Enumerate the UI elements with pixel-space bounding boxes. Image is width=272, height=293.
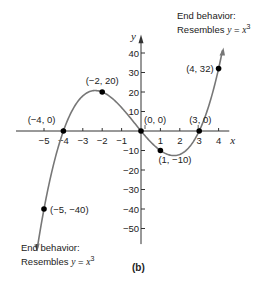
- y-tick-label: 20: [128, 87, 139, 98]
- note-line-2: Resembles y = x3: [21, 253, 94, 268]
- y-tick-label: 40: [128, 48, 139, 59]
- x-tick-label: 3: [197, 135, 202, 146]
- y-tick-label: −50: [123, 223, 139, 234]
- point-label: (−2, 20): [86, 75, 119, 86]
- y-axis-arrow-icon: [139, 34, 144, 43]
- y-tick-label: −20: [123, 165, 139, 176]
- data-point: [61, 128, 67, 134]
- data-point: [41, 206, 47, 212]
- eq-exponent: 3: [246, 23, 250, 30]
- figure-caption: (b): [132, 262, 145, 273]
- end-behavior-note-bottom: End behavior: Resembles y = x3: [21, 242, 94, 268]
- note-text: Resembles: [177, 24, 225, 35]
- x-tick-label: −3: [77, 135, 88, 146]
- y-tick-label: 30: [128, 67, 139, 78]
- note-line-1: End behavior:: [21, 242, 94, 253]
- end-behavior-note-top: End behavior: Resembles y = x3: [177, 10, 250, 36]
- x-tick-label: −2: [97, 135, 108, 146]
- point-label: (1, −10): [158, 154, 191, 165]
- x-tick-label: −5: [39, 135, 50, 146]
- note-line-1: End behavior:: [177, 10, 250, 21]
- data-point: [158, 148, 164, 154]
- data-point: [216, 66, 222, 72]
- x-tick-label: 1: [158, 135, 163, 146]
- point-label: (−4, 0): [28, 114, 56, 125]
- y-tick-label: 10: [128, 106, 139, 117]
- data-point: [138, 128, 144, 134]
- point-label: (3, 0): [189, 114, 211, 125]
- note-text: Resembles: [21, 256, 69, 267]
- x-tick-label: 2: [177, 135, 182, 146]
- point-label: (−5, −40): [50, 204, 89, 215]
- point-label: (0, 0): [144, 114, 166, 125]
- eq-equals: =: [75, 256, 86, 267]
- y-tick-label: −10: [123, 145, 139, 156]
- note-line-2: Resembles y = x3: [177, 21, 250, 36]
- y-tick-label: −40: [123, 204, 139, 215]
- eq-equals: =: [231, 24, 242, 35]
- x-axis-label: x: [229, 134, 235, 146]
- data-point: [196, 128, 202, 134]
- point-label: (4, 32): [186, 63, 213, 74]
- data-point: [99, 89, 105, 95]
- x-tick-label: 4: [216, 135, 221, 146]
- arrow-up-icon: [219, 47, 225, 55]
- y-tick-label: −30: [123, 184, 139, 195]
- y-axis-label: y: [130, 30, 136, 42]
- eq-exponent: 3: [90, 255, 94, 262]
